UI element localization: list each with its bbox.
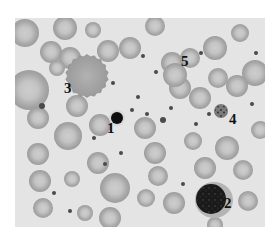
red-blood-cell: [54, 122, 82, 150]
platelet: [119, 151, 123, 155]
red-blood-cell: [189, 87, 211, 109]
red-blood-cell: [145, 18, 165, 36]
red-blood-cell: [27, 107, 49, 129]
cell-label-2: 2: [224, 196, 232, 211]
platelet: [136, 95, 140, 99]
red-blood-cell: [184, 132, 202, 150]
platelet: [92, 136, 96, 140]
cell-4-granules: [215, 105, 227, 117]
red-blood-cell: [215, 136, 239, 160]
red-blood-cell: [40, 41, 62, 63]
cell-label-3: 3: [64, 81, 72, 96]
platelet: [141, 54, 145, 58]
platelet: [111, 81, 115, 85]
platelet: [181, 182, 185, 186]
platelet: [250, 102, 254, 106]
cell-label-1: 1: [107, 121, 115, 136]
red-blood-cell: [233, 160, 253, 180]
red-blood-cell: [27, 143, 49, 165]
red-blood-cell: [97, 40, 119, 62]
red-blood-cell: [85, 22, 101, 38]
red-blood-cell: [99, 207, 121, 227]
red-blood-cell: [119, 37, 141, 59]
platelet: [154, 70, 158, 74]
cell-label-4: 4: [229, 112, 237, 127]
red-blood-cell: [49, 60, 65, 76]
platelet: [52, 191, 56, 195]
red-blood-cell: [163, 192, 185, 214]
red-blood-cell: [148, 166, 168, 186]
platelet: [194, 122, 198, 126]
red-blood-cell: [29, 170, 51, 192]
red-blood-cell: [53, 18, 77, 40]
red-blood-cell: [134, 117, 156, 139]
red-blood-cell: [144, 142, 166, 164]
blood-smear-micrograph: 12345: [15, 18, 265, 227]
red-blood-cell: [15, 19, 39, 47]
red-blood-cell: [251, 121, 265, 139]
platelet: [160, 117, 166, 123]
platelet: [130, 108, 134, 112]
red-blood-cell: [208, 68, 228, 88]
platelet: [207, 112, 211, 116]
red-blood-cell: [33, 198, 53, 218]
platelet: [103, 162, 107, 166]
red-blood-cell: [226, 75, 248, 97]
red-blood-cell: [238, 191, 258, 211]
red-blood-cell: [207, 217, 223, 227]
red-blood-cell: [100, 173, 130, 203]
platelet: [169, 106, 173, 110]
red-blood-cell: [64, 171, 80, 187]
platelet: [145, 112, 149, 116]
red-blood-cell: [203, 36, 227, 60]
red-blood-cell: [231, 24, 249, 42]
red-blood-cell: [66, 95, 88, 117]
red-blood-cell: [137, 189, 155, 207]
platelet: [199, 51, 203, 55]
red-blood-cell: [77, 205, 93, 221]
platelet: [254, 51, 258, 55]
cell-2-chromatin: [197, 185, 225, 213]
red-blood-cell: [194, 157, 216, 179]
platelet: [39, 103, 45, 109]
cell-label-5: 5: [181, 54, 189, 69]
platelet: [68, 209, 72, 213]
